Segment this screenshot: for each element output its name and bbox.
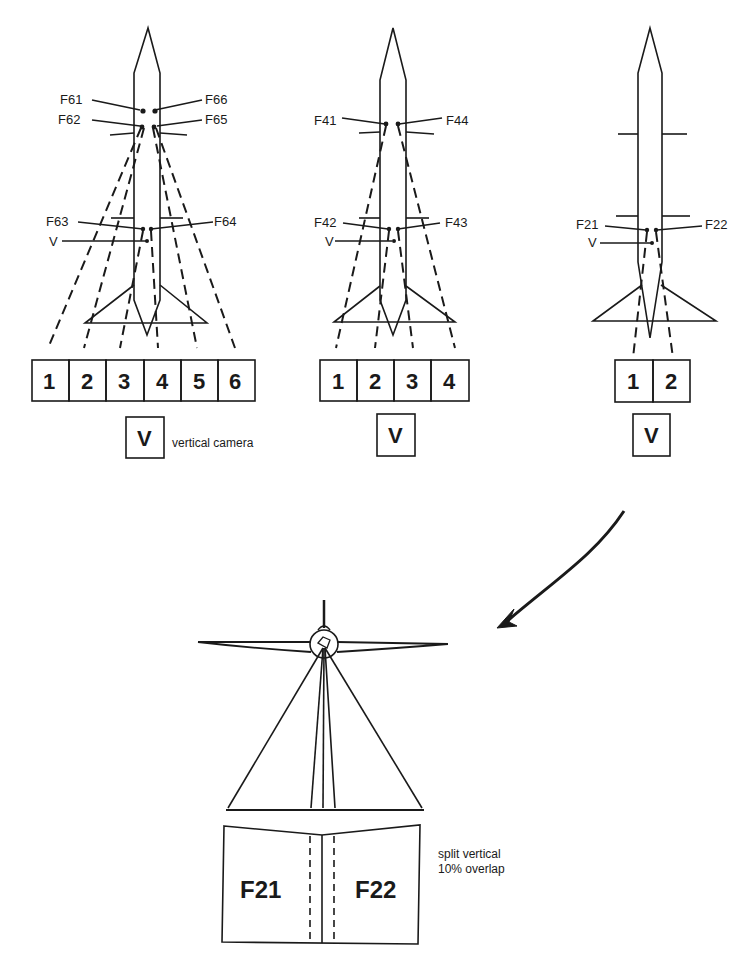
labels-4cam: F41 F42 F43 F44 V 1 2 3 4 V	[314, 113, 468, 448]
label-f64: F64	[214, 214, 236, 229]
box-4: 4	[156, 369, 169, 394]
box-5: 5	[193, 369, 205, 394]
label-f44: F44	[446, 113, 468, 128]
label-v: V	[588, 235, 597, 250]
aircraft-2cam	[593, 28, 716, 338]
aircraft-6cam	[62, 28, 213, 335]
box-1: 1	[43, 369, 55, 394]
box-1: 1	[627, 369, 639, 394]
box-2: 2	[665, 369, 677, 394]
box-2: 2	[369, 369, 381, 394]
box-2: 2	[81, 369, 93, 394]
curved-arrow	[505, 511, 624, 623]
box-3: 3	[118, 369, 130, 394]
box-v: V	[388, 423, 403, 448]
label-f43: F43	[445, 215, 467, 230]
label-f42: F42	[314, 215, 336, 230]
label-f63: F63	[46, 214, 68, 229]
label-f65: F65	[205, 112, 227, 127]
labels-split: F21 F22 split vertical 10% overlap	[240, 847, 505, 903]
label-f22: F22	[705, 217, 727, 232]
label-f66: F66	[205, 92, 227, 107]
label-f62: F62	[58, 112, 80, 127]
labels-6cam: F61 F62 F63 F64 F65 F66 V 1 2 3 4 5 6 V …	[43, 92, 254, 451]
box-3: 3	[406, 369, 418, 394]
front-view-aircraft	[198, 600, 448, 810]
label-f21: F21	[576, 217, 598, 232]
aircraft-4cam	[334, 28, 455, 335]
vertical-camera-caption: vertical camera	[172, 436, 254, 450]
view-lines-6cam	[48, 128, 235, 348]
view-lines-2cam	[633, 232, 673, 358]
box-1: 1	[332, 369, 344, 394]
frame-f21: F21	[240, 876, 281, 903]
frame-f22: F22	[355, 876, 396, 903]
box-v: V	[137, 426, 152, 451]
label-v: V	[325, 234, 334, 249]
box-4: 4	[443, 369, 456, 394]
view-lines-4cam	[336, 126, 455, 348]
camera-configuration-diagram: F61 F62 F63 F64 F65 F66 V 1 2 3 4 5 6 V …	[0, 0, 748, 961]
label-f61: F61	[60, 92, 82, 107]
box-v: V	[644, 423, 659, 448]
box-6: 6	[229, 369, 241, 394]
split-caption-2: 10% overlap	[438, 862, 505, 876]
label-f41: F41	[314, 113, 336, 128]
arrow-head-icon	[497, 609, 517, 628]
label-v: V	[49, 234, 58, 249]
split-caption-1: split vertical	[438, 847, 501, 861]
